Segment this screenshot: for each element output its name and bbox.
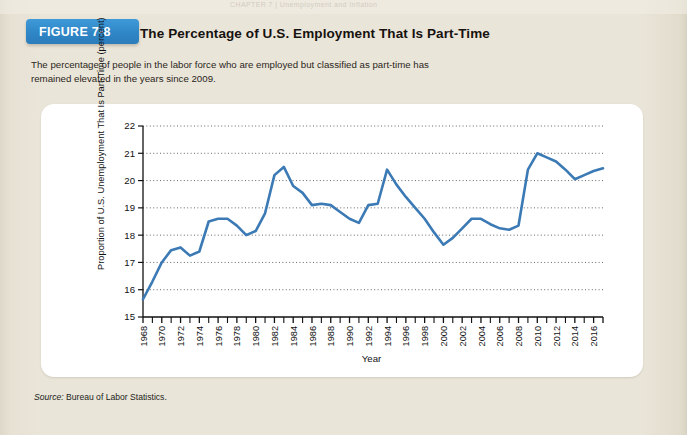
x-axis-title: Year xyxy=(0,353,687,364)
figure-badge: FIGURE 7-8 xyxy=(26,19,139,44)
running-head: CHAPTER 7 | Unemployment and Inflation xyxy=(230,1,560,10)
figure-description: The percentage of people in the labor fo… xyxy=(31,58,451,85)
source-text: Bureau of Labor Statistics. xyxy=(64,392,167,402)
y-axis-title: Proportion of U.S. Unemployment That Is … xyxy=(96,17,108,270)
figure-title: The Percentage of U.S. Employment That I… xyxy=(140,26,490,41)
figure-card xyxy=(41,104,643,377)
source-prefix: Source: xyxy=(34,392,64,402)
y-axis-title-wrap: Proportion of U.S. Unemployment That Is … xyxy=(100,120,114,320)
figure-source: Source: Bureau of Labor Statistics. xyxy=(34,392,167,402)
